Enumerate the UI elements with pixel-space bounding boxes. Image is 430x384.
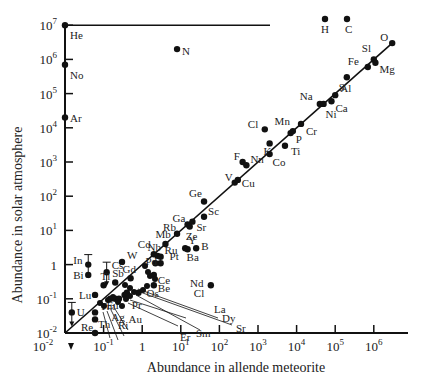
element-label: He: [70, 29, 83, 41]
element-label: Cl: [248, 118, 258, 130]
data-point-cluster: [152, 276, 158, 282]
arrow-down-icon: [68, 343, 74, 350]
data-point-fe: [365, 64, 371, 70]
data-point-s: [344, 74, 350, 80]
data-point-cluster: [110, 294, 116, 300]
element-label: Ar: [70, 112, 82, 124]
element-label: B: [201, 240, 208, 252]
data-point-sc: [201, 214, 207, 220]
element-label: Sc: [208, 205, 219, 217]
element-label: Be: [158, 282, 170, 294]
data-point-bi: [85, 272, 91, 278]
data-point-cluster: [122, 282, 128, 288]
data-point-h: [322, 16, 328, 22]
data-point-cluster: [119, 303, 125, 309]
element-label: Co: [273, 156, 286, 168]
y-tick-label: 102: [40, 187, 58, 204]
element-label: Cu: [242, 177, 255, 189]
element-label: W: [127, 249, 138, 261]
x-tick-label: 103: [249, 337, 267, 354]
y-tick-label: 103: [40, 153, 58, 170]
x-axis-title-text: Abundance in allende meteorite: [147, 360, 325, 375]
data-point-o: [389, 40, 395, 46]
data-point-cu: [235, 177, 241, 183]
element-label: Y: [188, 234, 196, 246]
element-label: Ti: [291, 145, 300, 157]
x-tick-label: 104: [288, 337, 306, 354]
element-label: Fe: [348, 55, 359, 67]
element-label: V: [225, 171, 233, 183]
element-label: H: [321, 23, 329, 35]
element-label: Lu: [79, 289, 92, 301]
element-label: Au: [129, 313, 143, 325]
element-label: U: [77, 306, 85, 318]
data-point-tl: [100, 282, 106, 288]
chart-canvas: 10-210-1110110210310410510610710-1110110…: [0, 0, 430, 384]
x-tick-label: 10-1: [93, 337, 114, 354]
element-label: Ca: [335, 102, 347, 114]
y-tick-label: 105: [40, 85, 58, 102]
data-point-nn: [243, 162, 249, 168]
y-tick-label: 1: [51, 258, 58, 273]
data-point-al: [332, 92, 338, 98]
data-point-c: [344, 16, 350, 22]
data-point-cluster: [127, 285, 133, 291]
element-label: Gd: [123, 263, 137, 275]
data-point-cluster: [105, 297, 111, 303]
element-label: Re: [81, 321, 93, 333]
element-label: Ni: [326, 108, 337, 120]
element-label: Ri: [118, 319, 128, 331]
data-point-ru: [157, 254, 163, 260]
element-label: Sr: [196, 221, 206, 233]
data-point-ti: [282, 142, 288, 148]
origin-label: 10-2: [33, 337, 54, 354]
data-point-cr: [298, 121, 304, 127]
data-point-ni: [320, 101, 326, 107]
element-label: Sl: [362, 42, 371, 54]
data-point-ca: [328, 98, 334, 104]
data-point-no: [62, 61, 68, 67]
element-label: Mg: [379, 63, 395, 75]
data-point-tm: [92, 309, 98, 315]
data-point-gd: [127, 275, 133, 281]
data-point-b: [193, 245, 199, 251]
data-point-n: [174, 46, 180, 52]
element-label: Ge: [189, 187, 202, 199]
element-label: No: [70, 69, 84, 81]
element-label: Nn: [250, 153, 264, 165]
data-point-ar: [62, 114, 68, 120]
data-point-sb: [112, 279, 118, 285]
element-label: Pt: [170, 250, 179, 262]
data-point-he: [62, 22, 68, 28]
element-label: Sr: [236, 322, 246, 334]
element-label: Mn: [275, 115, 291, 127]
x-tick-label: 1: [139, 339, 146, 354]
data-point-mg: [372, 60, 378, 66]
element-label: Na: [300, 90, 313, 102]
element-label: Pr: [132, 299, 142, 311]
element-label: Ba: [187, 251, 199, 263]
x-tick-label: 102: [211, 337, 229, 354]
element-label: Er: [180, 331, 191, 343]
data-point-cl: [208, 282, 214, 288]
x-tick-label: 105: [326, 337, 344, 354]
y-tick-label: 101: [40, 221, 58, 238]
x-tick-label: 106: [365, 337, 383, 354]
element-label: Sm: [196, 327, 211, 339]
abundance-scatter-chart: 10-210-1110110210310410510610710-1110110…: [0, 0, 430, 384]
element-label: Bi: [73, 269, 83, 281]
data-point-cluster: [142, 263, 148, 269]
element-label: C: [345, 23, 352, 35]
element-label: Mb: [155, 228, 171, 240]
element-label: N: [182, 45, 190, 57]
element-label: P: [296, 133, 302, 145]
data-point-cluster: [101, 303, 107, 309]
y-tick-label: 107: [40, 16, 58, 33]
data-point-cluster: [145, 269, 151, 275]
element-label: Tl: [101, 270, 111, 282]
data-point-lu: [92, 292, 98, 298]
data-point-cl: [262, 126, 268, 132]
element-label: Cr: [306, 125, 317, 137]
y-tick-label: 104: [40, 119, 58, 136]
element-label: F: [234, 150, 240, 162]
